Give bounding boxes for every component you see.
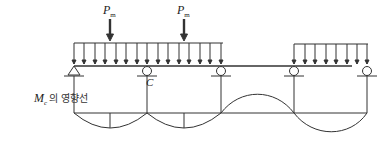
roller-support-3 <box>211 67 231 77</box>
roller-support-4 <box>284 67 304 77</box>
projection-lines <box>74 76 367 113</box>
point-load-arrow-2 <box>181 19 188 41</box>
point-load-label-1: Pm <box>103 3 116 19</box>
point-load-arrow-1 <box>107 19 114 41</box>
pin-support-a <box>64 66 84 76</box>
roller-support-c <box>137 67 157 77</box>
distributed-load-arrows-1 <box>72 43 223 64</box>
point-load-label-2: Pm <box>177 3 190 19</box>
influence-line-label: Mc의 영향선 <box>34 90 88 107</box>
influence-line-diagram: Pm Pm C Mc의 영향선 <box>0 0 390 141</box>
roller-support-5 <box>357 67 377 77</box>
support-c-label: C <box>146 76 153 88</box>
distributed-load-arrows-2 <box>292 44 369 64</box>
beam-diagram-graphic <box>0 0 390 141</box>
